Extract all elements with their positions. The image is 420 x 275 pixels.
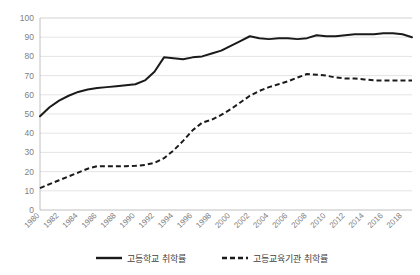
y-tick-label: 10 — [25, 186, 35, 196]
x-tick-label: 2004 — [251, 211, 270, 230]
x-tick-label: 2016 — [366, 211, 385, 230]
x-tick-label: 2018 — [385, 211, 404, 230]
y-tick-label: 80 — [25, 51, 35, 61]
x-tick-label: 1998 — [194, 211, 213, 230]
x-tick-label: 2008 — [290, 211, 309, 230]
x-tick-label: 2010 — [309, 211, 328, 230]
x-tick-label: 1994 — [156, 211, 175, 230]
x-axis-tick-labels: 1980198219841986198819901992199419961998… — [22, 211, 404, 230]
x-tick-label: 2000 — [213, 211, 232, 230]
x-tick-label: 2006 — [270, 211, 289, 230]
x-tick-label: 1980 — [22, 211, 41, 230]
line-chart-svg: 0102030405060708090100 19801982198419861… — [0, 0, 420, 275]
x-tick-label: 1996 — [175, 211, 194, 230]
y-tick-label: 20 — [25, 167, 35, 177]
gridlines-group — [40, 18, 412, 210]
y-tick-label: 70 — [25, 71, 35, 81]
x-tick-label: 2014 — [347, 211, 366, 230]
x-tick-label: 1988 — [99, 211, 118, 230]
x-tick-label: 2012 — [328, 211, 347, 230]
y-tick-label: 50 — [25, 109, 35, 119]
x-tick-label: 1990 — [118, 211, 137, 230]
x-tick-label: 1984 — [61, 211, 80, 230]
x-tick-label: 1982 — [42, 211, 61, 230]
chart-legend: 고등학교 취학률고등교육기관 취학률 — [96, 254, 328, 264]
legend-label: 고등교육기관 취학률 — [253, 254, 328, 264]
legend-label: 고등학교 취학률 — [127, 254, 186, 264]
y-tick-label: 60 — [25, 90, 35, 100]
x-tick-label: 1986 — [80, 211, 99, 230]
series-line-dashed — [40, 74, 412, 188]
series-line-solid — [40, 33, 412, 116]
y-tick-label: 40 — [25, 128, 35, 138]
x-tick-label: 2002 — [232, 211, 251, 230]
y-tick-label: 90 — [25, 32, 35, 42]
y-axis-tick-labels: 0102030405060708090100 — [20, 13, 34, 215]
y-tick-label: 30 — [25, 147, 35, 157]
x-tick-label: 1992 — [137, 211, 156, 230]
plot-area-wrapper: 0102030405060708090100 19801982198419861… — [0, 0, 420, 275]
y-tick-label: 100 — [20, 13, 34, 23]
chart-container: 0102030405060708090100 19801982198419861… — [0, 0, 420, 275]
